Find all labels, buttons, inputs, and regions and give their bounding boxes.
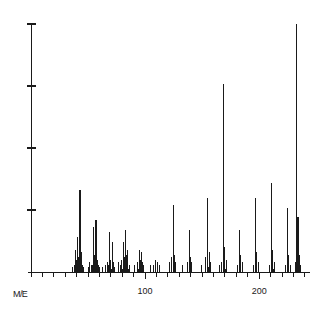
x-axis-tick-label: 100 (138, 286, 153, 296)
x-axis-label: M/E (13, 289, 28, 299)
mass-spectrum-figure: 100200 M/E (0, 0, 323, 318)
spectrum-plot: 100200 M/E (0, 0, 323, 318)
plot-background (0, 0, 323, 318)
x-axis-tick-label: 200 (252, 286, 267, 296)
